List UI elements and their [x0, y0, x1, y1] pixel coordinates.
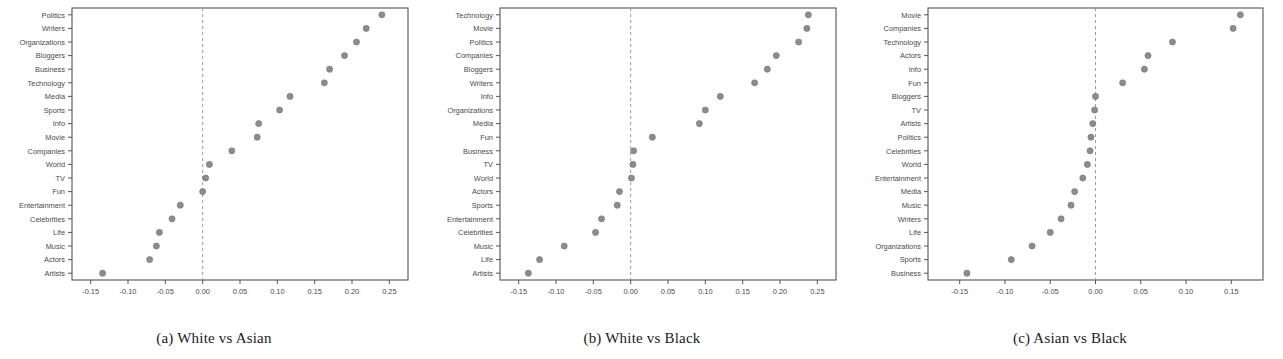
y-axis-label: Actors [44, 255, 65, 264]
x-axis-tick-label: -0.15 [82, 287, 99, 296]
y-axis-label: Writers [898, 215, 922, 224]
data-point [1029, 243, 1035, 249]
data-point [804, 25, 810, 31]
y-axis-label: Organizations [19, 38, 65, 47]
data-point [1145, 53, 1151, 59]
data-point [256, 121, 262, 127]
y-axis-label: Media [901, 187, 922, 196]
panel-caption-a: (a) White vs Asian [0, 330, 428, 347]
x-axis-tick-label: -0.10 [997, 287, 1014, 296]
data-point [773, 53, 779, 59]
x-axis-tick-label: -0.10 [120, 287, 137, 296]
y-axis-label: Politics [470, 38, 494, 47]
y-axis-label: TV [484, 160, 494, 169]
data-point [598, 216, 604, 222]
data-point [1080, 175, 1086, 181]
y-axis-label: Companies [456, 51, 494, 60]
data-point [592, 229, 598, 235]
data-point [1230, 25, 1236, 31]
y-axis-label: Movie [473, 24, 493, 33]
data-point [649, 134, 655, 140]
data-point [169, 216, 175, 222]
data-point [805, 12, 811, 18]
data-point [1092, 93, 1098, 99]
y-axis-label: Sports [900, 255, 922, 264]
x-axis-tick-label: 0.15 [735, 287, 749, 296]
y-axis-label: Info [909, 65, 921, 74]
y-axis-label: Writers [42, 24, 66, 33]
x-axis-tick-label: 0.10 [698, 287, 712, 296]
data-point [1088, 134, 1094, 140]
y-axis-label: Movie [901, 11, 921, 20]
panel-caption-b: (b) White vs Black [428, 330, 856, 347]
x-axis-tick-label: 0.10 [1179, 287, 1193, 296]
data-point [561, 243, 567, 249]
y-axis-label: Actors [900, 51, 921, 60]
data-point [1237, 12, 1243, 18]
data-point [616, 189, 622, 195]
y-axis-label: World [474, 174, 493, 183]
x-axis-tick-label: 0.00 [195, 287, 209, 296]
panel-caption-c: (c) Asian vs Black [856, 330, 1283, 347]
x-axis-tick-label: -0.15 [951, 287, 968, 296]
data-point [206, 161, 212, 167]
y-axis-label: Music [46, 242, 66, 251]
data-point [536, 257, 542, 263]
data-point [1169, 39, 1175, 45]
data-point [1008, 257, 1014, 263]
y-axis-label: Actors [472, 187, 493, 196]
data-point [203, 175, 209, 181]
data-point [1141, 66, 1147, 72]
y-axis-label: Fun [480, 133, 493, 142]
scatter-plot-c: MovieCompaniesTechnologyActorsInfoFunBlo… [856, 0, 1283, 300]
data-point [363, 25, 369, 31]
data-point [1084, 161, 1090, 167]
x-axis-tick-label: -0.05 [157, 287, 174, 296]
data-point [1058, 216, 1064, 222]
data-point [287, 93, 293, 99]
x-axis-tick-label: 0.00 [1088, 287, 1102, 296]
data-point [1120, 80, 1126, 86]
data-point [1047, 229, 1053, 235]
y-axis-label: World [46, 160, 65, 169]
data-point [1072, 189, 1078, 195]
data-point [100, 270, 106, 276]
data-point [796, 39, 802, 45]
x-axis-tick-label: 0.15 [307, 287, 321, 296]
data-point [147, 257, 153, 263]
x-axis-tick-label: 0.25 [382, 287, 396, 296]
data-point [276, 107, 282, 113]
plot-frame [72, 8, 408, 280]
y-axis-label: Life [481, 255, 493, 264]
x-axis-tick-label: 0.20 [773, 287, 787, 296]
scatter-plot-b: TechnologyMoviePoliticsCompaniesBloggers… [428, 0, 856, 300]
y-axis-label: Technology [884, 38, 922, 47]
plot-frame [928, 8, 1263, 280]
data-point [1090, 121, 1096, 127]
data-point [702, 107, 708, 113]
y-axis-label: Movie [45, 133, 65, 142]
x-axis-tick-label: -0.15 [510, 287, 527, 296]
y-axis-label: Politics [898, 133, 922, 142]
y-axis-label: Music [902, 201, 922, 210]
y-axis-label: Entertainment [875, 174, 921, 183]
y-axis-label: Bloggers [36, 51, 65, 60]
y-axis-label: Entertainment [19, 201, 65, 210]
data-point [628, 175, 634, 181]
y-axis-label: TV [912, 106, 922, 115]
x-axis-tick-label: 0.15 [1224, 287, 1238, 296]
y-axis-label: Celebrities [886, 147, 921, 156]
y-axis-label: Media [473, 119, 494, 128]
x-axis-tick-label: 0.25 [810, 287, 824, 296]
y-axis-label: Technology [28, 79, 66, 88]
y-axis-label: Organizations [447, 106, 493, 115]
y-axis-label: Artists [472, 269, 493, 278]
y-axis-label: Entertainment [447, 215, 493, 224]
panel-asian-vs-black: MovieCompaniesTechnologyActorsInfoFunBlo… [856, 0, 1283, 359]
y-axis-label: Business [35, 65, 65, 74]
scatter-plot-a: PoliticsWritersOrganizationsBloggersBusi… [0, 0, 428, 300]
data-point [525, 270, 531, 276]
data-point [1068, 202, 1074, 208]
y-axis-label: Info [53, 119, 65, 128]
y-axis-label: Fun [908, 79, 921, 88]
